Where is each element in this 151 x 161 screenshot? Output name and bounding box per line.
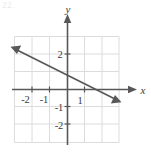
- x-axis-label: x: [140, 84, 146, 96]
- x-axis: [12, 86, 137, 94]
- x-tick-label-neg2: -2: [21, 94, 30, 105]
- x-tick-label-neg1: -1: [40, 94, 49, 105]
- y-axis-label: y: [65, 3, 71, 15]
- y-tick-label-neg2: -2: [55, 120, 64, 131]
- y-tick-label-neg1: -1: [55, 102, 64, 113]
- graph-figure: 22.: [0, 0, 151, 161]
- coordinate-plane: -2 -1 1 2 -1 -2 x y: [0, 0, 151, 161]
- x-tick-label-pos1: 1: [77, 95, 82, 106]
- y-axis: [64, 14, 72, 145]
- y-tick-label-pos2: 2: [57, 49, 62, 60]
